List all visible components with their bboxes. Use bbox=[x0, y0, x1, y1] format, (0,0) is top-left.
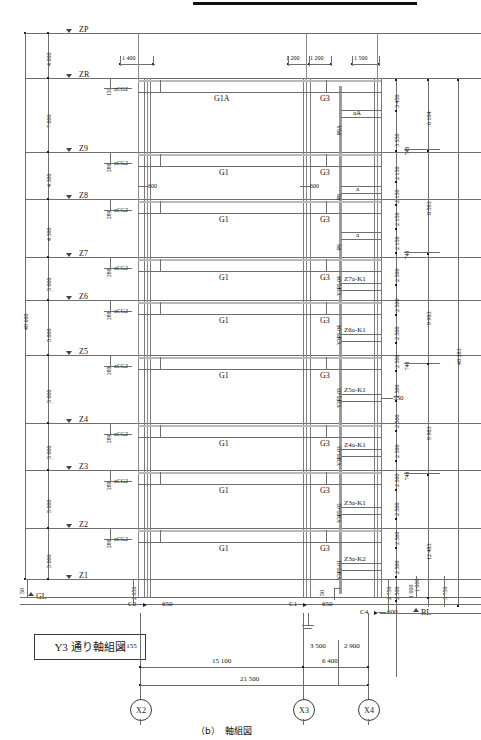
grid-bubble-x3[interactable]: X3 bbox=[293, 699, 315, 721]
gl-triangle-icon bbox=[28, 592, 34, 596]
level-label: ZP bbox=[79, 26, 88, 34]
title-box-text: Y3 通り軸組図 bbox=[54, 642, 125, 653]
dim-50-mid: 50 bbox=[319, 590, 325, 596]
dim-tick bbox=[302, 666, 304, 668]
total-span: 21 500 bbox=[240, 676, 259, 683]
span-x3-x4: 6 400 bbox=[322, 658, 338, 665]
dim-tick bbox=[457, 605, 459, 607]
level-label: ZR bbox=[79, 71, 89, 79]
gl-offset-dim: 50 bbox=[19, 588, 25, 594]
ext-line-sub bbox=[338, 640, 339, 685]
level-label: Z6 bbox=[79, 293, 88, 301]
span-x2-x3: 15 100 bbox=[212, 658, 231, 665]
grid-bubble-x2[interactable]: X2 bbox=[130, 699, 152, 721]
header-black-bar bbox=[193, 2, 417, 5]
gl-dim-tick bbox=[27, 579, 28, 597]
dim-1000-mid: 1 000 bbox=[408, 585, 414, 599]
level-label: Z9 bbox=[79, 145, 88, 153]
grid-label: X4 bbox=[364, 706, 374, 715]
ext-line-x4 bbox=[368, 613, 369, 685]
dim-2750: 2 750 bbox=[386, 587, 392, 601]
bl-line bbox=[380, 613, 481, 614]
right-dim-line-3 bbox=[458, 80, 459, 607]
level-label: Z1 bbox=[79, 572, 88, 580]
span-dim-line bbox=[140, 667, 368, 668]
grid-label: X3 bbox=[299, 706, 309, 715]
level-label: Z5 bbox=[79, 348, 88, 356]
figure-caption: （b） 軸組図 bbox=[196, 727, 252, 736]
total-dim-line bbox=[140, 685, 368, 686]
level-label: Z3 bbox=[79, 463, 88, 471]
overall-left-dim-line bbox=[25, 33, 26, 579]
drawing-sheet: 49 600 ZP ZR Z9 Z8 Z7 Z6 Z5 Z4 Z3 bbox=[0, 0, 481, 740]
base-line bbox=[20, 604, 481, 605]
right-dim-line-2 bbox=[428, 80, 429, 607]
level-label: Z4 bbox=[79, 416, 88, 424]
level-label: Z2 bbox=[79, 521, 88, 529]
ext-line-x3 bbox=[303, 613, 304, 685]
level-label: Z8 bbox=[79, 192, 88, 200]
grid-label: X2 bbox=[136, 706, 146, 715]
ext-line-x2 bbox=[140, 613, 141, 685]
grid-bubble-x4[interactable]: X4 bbox=[358, 699, 380, 721]
overall-height-left: 49 600 bbox=[23, 314, 29, 331]
dim-tick bbox=[457, 79, 459, 81]
dim-tick bbox=[367, 666, 369, 668]
dim-2050: 2 050 bbox=[131, 587, 137, 601]
level-label: Z7 bbox=[79, 250, 88, 258]
dim-2750-line bbox=[388, 579, 389, 613]
dim-tick bbox=[139, 666, 141, 668]
bl-triangle-icon bbox=[413, 608, 419, 612]
overall-height-right: 48 383 bbox=[456, 349, 462, 366]
dim-2050-line bbox=[133, 579, 134, 604]
dim-2155: 2 155 bbox=[121, 643, 137, 650]
